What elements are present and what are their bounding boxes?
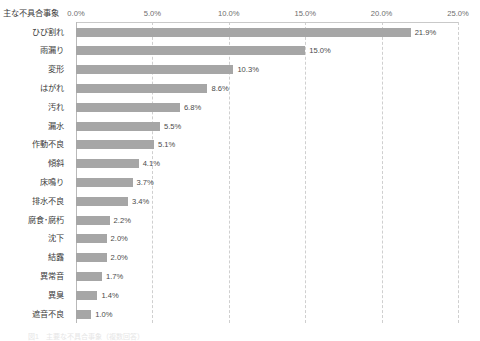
bar [76,272,102,281]
category-label: 腐食･腐朽 [0,215,70,226]
category-label: 雨漏り [0,45,70,56]
category-label: 結露 [0,252,70,263]
bar [76,84,207,93]
category-label: はがれ [0,83,70,94]
category-label: 沈下 [0,233,70,244]
bar-value-label: 4.1% [143,159,160,168]
bar [76,28,411,37]
bar [76,291,97,300]
bar-value-label: 1.0% [95,310,112,319]
bar-value-label: 8.6% [211,84,228,93]
bar [76,234,107,243]
bar [76,103,180,112]
bar-value-label: 2.2% [114,216,131,225]
category-label: 変形 [0,64,70,75]
x-tick-label: 10.0% [218,9,240,19]
x-tick-label: 20.0% [371,9,393,19]
bar-value-label: 10.3% [237,65,259,74]
bar-value-label: 1.4% [101,291,118,300]
category-label: 汚れ [0,102,70,113]
bar [76,178,133,187]
bar-value-label: 5.5% [164,122,181,131]
category-label: 異常音 [0,271,70,282]
bar-value-label: 1.7% [106,272,123,281]
bar-value-label: 6.8% [184,103,201,112]
x-tick-label: 5.0% [144,9,161,19]
bar [76,253,107,262]
category-label: 遮音不良 [0,309,70,320]
bar [76,310,91,319]
gridline [458,22,459,323]
figure-caption: 図1 主要な不具合事象（複数回答） [28,333,468,341]
bar [76,65,233,74]
category-label: 漏水 [0,121,70,132]
bar [76,197,128,206]
bar-value-label: 3.4% [132,197,149,206]
bar-value-label: 15.0% [309,46,331,55]
bar [76,122,160,131]
bar [76,216,110,225]
category-label: 異臭 [0,290,70,301]
bar-value-label: 2.0% [111,253,128,262]
x-tick-label: 0.0% [67,9,84,19]
bar-value-label: 5.1% [158,140,175,149]
x-tick-label: 25.0% [447,9,469,19]
axis-title: 主な不具合事象 [3,9,59,19]
bar [76,140,154,149]
bar [76,159,139,168]
category-label: ひび割れ [0,27,70,38]
bar-value-label: 3.7% [137,178,154,187]
x-tick-label: 15.0% [294,9,316,19]
category-label: 作動不良 [0,139,70,150]
gridline [382,22,383,323]
category-label: 傾斜 [0,158,70,169]
gridline [305,22,306,323]
bar-value-label: 21.9% [415,28,437,37]
plot-top-rule [76,22,458,23]
bar [76,46,305,55]
bar-value-label: 2.0% [111,234,128,243]
category-label: 排水不良 [0,196,70,207]
category-label: 床鳴り [0,177,70,188]
